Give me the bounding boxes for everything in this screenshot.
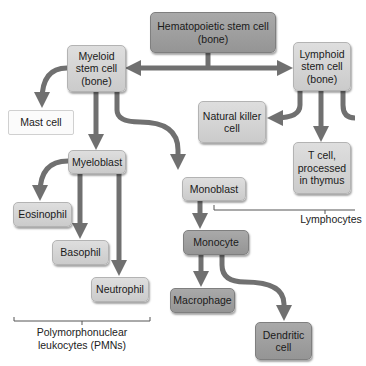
node-macrophage: Macrophage — [170, 288, 235, 313]
node-neutrophil: Neutrophil — [91, 277, 149, 302]
node-natural-killer-cell: Natural killer cell — [198, 101, 266, 143]
node-basophil: Basophil — [52, 240, 109, 265]
node-myeloid-stem-cell: Myeloid stem cell (bone) — [67, 45, 126, 92]
node-t-cell: T cell, processed in thymus — [293, 142, 351, 194]
node-monocyte: Monocyte — [183, 230, 249, 255]
node-mast-cell: Mast cell — [8, 110, 74, 135]
node-eosinophil: Eosinophil — [13, 202, 72, 227]
node-myeloblast: Myeloblast — [68, 150, 126, 174]
node-monoblast: Monoblast — [182, 177, 246, 201]
node-lymphoid-stem-cell: Lymphoid stem cell (bone) — [293, 42, 351, 91]
node-hematopoietic-stem-cell: Hematopoietic stem cell (bone) — [150, 12, 276, 53]
node-dendritic-cell: Dendritic cell — [255, 322, 312, 360]
group-label-lymphocytes: Lymphocytes — [296, 213, 366, 226]
group-label-pmns: Polymorphonuclear leukocytes (PMNs) — [22, 326, 142, 352]
